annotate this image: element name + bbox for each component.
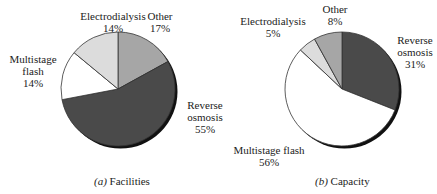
label-name: Other: [315, 3, 355, 15]
caption-letter: (b): [315, 175, 328, 187]
label-pct: 8%: [315, 15, 355, 27]
caption-text: Facilities: [107, 175, 150, 187]
pie-chart-facilities: [61, 32, 178, 149]
label-b-multistage-flash: Multistage flash 56%: [226, 144, 312, 168]
label-line1: Multistage: [6, 53, 60, 65]
caption-b: (b) Capacity: [315, 175, 370, 187]
label-pct: 17%: [140, 22, 180, 34]
pie-charts-canvas: [0, 0, 437, 194]
label-a-reverse-osmosis: Reverse osmosis 55%: [180, 99, 230, 135]
label-line1: Reverse: [392, 34, 437, 46]
label-name: Multistage flash: [226, 144, 312, 156]
label-pct: 5%: [238, 27, 308, 39]
label-pct: 14%: [6, 77, 60, 89]
label-a-other: Other 17%: [140, 10, 180, 34]
label-line2: flash: [6, 65, 60, 77]
pie-chart-capacity: [285, 32, 402, 149]
label-pct: 14%: [78, 22, 148, 34]
label-name: Other: [140, 10, 180, 22]
label-a-multistage-flash: Multistage flash 14%: [6, 53, 60, 89]
label-line1: Reverse: [180, 99, 230, 111]
label-line2: osmosis: [180, 111, 230, 123]
label-name: Electrodialysis: [238, 15, 308, 27]
label-pct: 55%: [180, 123, 230, 135]
caption-text: Capacity: [328, 175, 370, 187]
label-pct: 31%: [392, 58, 437, 70]
label-b-electrodialysis: Electrodialysis 5%: [238, 15, 308, 39]
label-line2: osmosis: [392, 46, 437, 58]
label-pct: 56%: [226, 156, 312, 168]
label-b-other: Other 8%: [315, 3, 355, 27]
caption-letter: (a): [94, 175, 107, 187]
label-a-electrodialysis: Electrodialysis 14%: [78, 10, 148, 34]
label-name: Electrodialysis: [78, 10, 148, 22]
caption-a: (a) Facilities: [94, 175, 150, 187]
label-b-reverse-osmosis: Reverse osmosis 31%: [392, 34, 437, 70]
